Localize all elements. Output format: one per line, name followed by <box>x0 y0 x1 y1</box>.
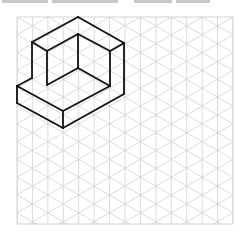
block-edge <box>110 43 124 51</box>
grid-line-diagonal <box>17 0 233 17</box>
grid-line-diagonal <box>17 231 233 234</box>
l-shaped-block <box>17 17 124 128</box>
block-edge <box>32 42 47 51</box>
isometric-grid <box>17 0 233 234</box>
block-edge <box>17 78 32 86</box>
block-edge <box>63 86 110 111</box>
grid-line-diagonal <box>17 231 233 234</box>
block-edge <box>63 94 124 128</box>
grid-line-diagonal <box>17 0 233 17</box>
block-edge <box>47 68 78 85</box>
isometric-drawing <box>0 0 246 234</box>
